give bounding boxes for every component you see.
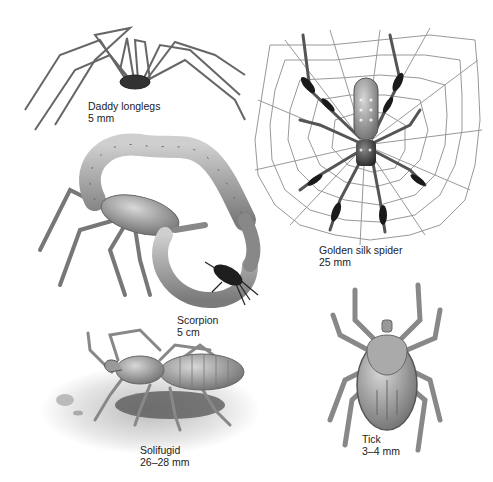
specimen-name: Golden silk spider [319, 244, 402, 256]
golden-silk-spider-label: Golden silk spider 25 mm [319, 244, 402, 268]
specimen-size: 5 mm [88, 112, 160, 124]
solifugid-label: Solifugid 26–28 mm [140, 444, 190, 468]
specimen-name: Solifugid [140, 444, 190, 456]
tick-label: Tick 3–4 mm [362, 433, 400, 457]
specimen-size: 25 mm [319, 256, 402, 268]
specimen-size: 5 cm [177, 326, 218, 338]
specimen-name: Daddy longlegs [88, 100, 160, 112]
scorpion-drawing [40, 144, 258, 305]
daddy-longlegs-label: Daddy longlegs 5 mm [88, 100, 160, 124]
solifugid-drawing [40, 330, 260, 455]
tick-drawing [330, 285, 440, 450]
specimen-size: 26–28 mm [140, 456, 190, 468]
specimen-name: Tick [362, 433, 400, 445]
scorpion-label: Scorpion 5 cm [177, 314, 218, 338]
arachnid-illustration [0, 0, 493, 482]
specimen-size: 3–4 mm [362, 445, 400, 457]
specimen-name: Scorpion [177, 314, 218, 326]
